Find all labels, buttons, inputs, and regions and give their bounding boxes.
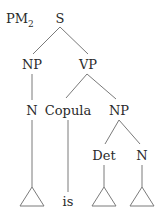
title-subscript: 2 [28,19,34,29]
node-n-object: N [136,149,147,162]
edge-vp-copula [66,74,87,98]
node-np: NP [22,58,42,71]
edge-np-det [105,120,119,144]
node-s: S [56,12,65,25]
phrase-marker-title: PM2 [6,12,34,29]
title-text: PM [6,11,28,26]
node-np-object: NP [109,104,129,117]
leaf-is: is [63,195,74,208]
triangle-det [92,187,116,206]
edge-s-vp [60,27,88,54]
node-vp: VP [79,58,97,71]
triangle-n2 [130,187,154,206]
node-copula: Copula [45,104,91,117]
node-det: Det [92,149,115,162]
triangle-n [20,187,44,206]
edge-vp-np [87,74,116,99]
node-n: N [26,104,37,117]
edge-np-n2 [119,120,140,144]
edge-s-np [33,27,60,54]
